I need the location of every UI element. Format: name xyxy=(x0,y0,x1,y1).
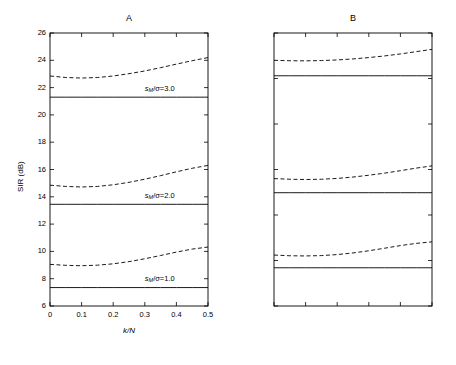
curve-annotation: sM/σ=1.0 xyxy=(145,274,175,283)
x-tick-label: 0.4 xyxy=(162,310,190,319)
series-line-dashed xyxy=(274,166,432,180)
curve-annotation: sM/σ=3.0 xyxy=(145,84,175,93)
series-line-dashed xyxy=(50,58,208,78)
y-tick-label: 24 xyxy=(22,55,46,64)
figure-root: A 00.10.20.30.40.568101214161820222426sM… xyxy=(0,0,456,365)
series-line-dashed xyxy=(274,242,432,256)
y-tick-label: 10 xyxy=(22,246,46,255)
series-line-dashed xyxy=(50,165,208,187)
x-axis-label: k/N xyxy=(50,326,208,335)
x-tick-label: 0 xyxy=(36,310,64,319)
x-tick-label: 0.3 xyxy=(131,310,159,319)
series-line-dashed xyxy=(274,49,432,60)
y-tick-label: 12 xyxy=(22,219,46,228)
panel-a: A 00.10.20.30.40.568101214161820222426sM… xyxy=(0,0,228,365)
x-tick-label: 0.5 xyxy=(194,310,222,319)
series-line-dashed xyxy=(50,247,208,266)
y-tick-label: 26 xyxy=(22,28,46,37)
panel-b-plot xyxy=(228,0,456,365)
y-tick-label: 22 xyxy=(22,83,46,92)
curve-annotation: sM/σ=2.0 xyxy=(145,191,175,200)
y-axis-label: SIR (dB) xyxy=(16,161,25,192)
y-tick-label: 18 xyxy=(22,137,46,146)
x-tick-label: 0.2 xyxy=(99,310,127,319)
y-tick-label: 6 xyxy=(22,301,46,310)
plot-frame xyxy=(274,33,432,306)
x-tick-label: 0.1 xyxy=(68,310,96,319)
y-tick-label: 20 xyxy=(22,110,46,119)
y-tick-label: 8 xyxy=(22,274,46,283)
y-tick-label: 16 xyxy=(22,165,46,174)
y-tick-label: 14 xyxy=(22,192,46,201)
panel-b: B 00.10.20.30.40.55101520253035sM/σ=3.0s… xyxy=(228,0,456,365)
